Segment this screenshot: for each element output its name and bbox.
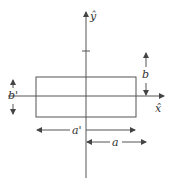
b-prime-label: b'	[8, 89, 18, 102]
y-axis: ŷ	[82, 10, 97, 178]
b-label: b	[142, 68, 149, 81]
b-dimension: b	[142, 53, 149, 95]
a-prime-label: a'	[72, 124, 82, 137]
a-label: a	[112, 136, 119, 149]
rectangle-dimension-diagram: ŷ x̂ b b' a' a	[0, 0, 169, 189]
a-dimension: a	[87, 136, 146, 149]
y-axis-label: ŷ	[89, 10, 97, 23]
b-prime-dimension: b'	[8, 80, 18, 114]
x-axis-label: x̂	[155, 102, 162, 115]
